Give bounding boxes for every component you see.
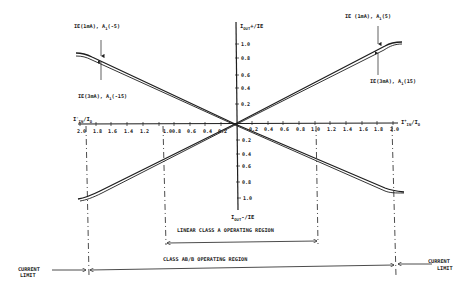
svg-text:LINEAR CLASS A OPERATING REGIO: LINEAR CLASS A OPERATING REGION: [177, 227, 274, 233]
svg-text:1.2: 1.2: [327, 126, 336, 132]
svg-text:1.0: 1.0: [243, 195, 252, 201]
svg-text:0.6: 0.6: [242, 163, 251, 169]
svg-text:IE(1mA), A1(-5): IE(1mA), A1(-5): [74, 23, 120, 31]
svg-text:0.6: 0.6: [280, 126, 289, 132]
svg-text:0.4: 0.4: [264, 126, 273, 132]
svg-text:1.6: 1.6: [108, 128, 117, 134]
x-axis-positive-label: I+IN/IO: [401, 118, 421, 127]
svg-text:LIMIT: LIMIT: [20, 272, 36, 278]
annotation-top-left: IE(1mA), A1(-5) IE(3mA), A1(-15): [74, 23, 127, 101]
x-ticks-right: 0.2 0.4 0.6 0.8 1.0 1.2 1.4 1.6 1.8 2.0: [249, 126, 399, 132]
y-axis-negative-label: IOUT-/IE: [231, 214, 254, 222]
svg-text:IE (1mA), A1(5): IE (1mA), A1(5): [345, 13, 391, 21]
y-ticks-up: 0.2 0.4 0.6 0.8 1.0: [241, 41, 250, 107]
svg-text:IE(3mA), A1(15): IE(3mA), A1(15): [370, 78, 416, 86]
svg-text:0.8: 0.8: [172, 128, 181, 134]
annotation-top-right: IE (1mA), A1(5) IE(3mA), A1(15): [345, 13, 416, 86]
x-ticks-left: 2.0 1.8 1.6 1.4 1.2 1.0 0.8 0.6 0.4 0.2: [77, 128, 227, 134]
class-ab-b-region: CLASS AB/B OPERATING REGION: [90, 256, 394, 270]
current-limit-left: CURRENT LIMIT: [18, 266, 86, 278]
svg-text:1.0: 1.0: [311, 126, 320, 132]
y-axis-positive-label: IOUT+/IE: [240, 23, 263, 31]
linear-class-a-region: LINEAR CLASS A OPERATING REGION: [167, 227, 317, 243]
svg-text:0.8: 0.8: [242, 179, 251, 185]
svg-text:CLASS AB/B OPERATING REGION: CLASS AB/B OPERATING REGION: [163, 256, 247, 262]
svg-text:IE(3mA), A1(-15): IE(3mA), A1(-15): [78, 93, 127, 101]
svg-text:1.4: 1.4: [343, 126, 352, 132]
svg-text:0.4: 0.4: [241, 85, 250, 91]
svg-text:0.6: 0.6: [241, 72, 250, 78]
svg-text:0.6: 0.6: [187, 128, 196, 134]
transfer-characteristic-diagram: 2.0 1.8 1.6 1.4 1.2 1.0 0.8 0.6 0.4 0.2 …: [0, 0, 470, 291]
svg-text:0.2: 0.2: [242, 137, 251, 143]
svg-text:1.8: 1.8: [93, 128, 102, 134]
svg-text:0.2: 0.2: [241, 101, 250, 107]
svg-text:1.2: 1.2: [140, 128, 149, 134]
svg-text:2.0: 2.0: [390, 126, 399, 132]
svg-text:CURRENT: CURRENT: [428, 258, 450, 264]
current-limit-right: CURRENT LIMIT: [398, 258, 453, 271]
y-axis: [235, 22, 241, 210]
svg-text:LIMIT: LIMIT: [437, 265, 453, 271]
svg-text:2.0: 2.0: [77, 128, 86, 134]
svg-text:0.8: 0.8: [296, 126, 305, 132]
svg-text:1.0: 1.0: [241, 41, 250, 47]
region-boundary-lines: [86, 126, 396, 276]
svg-text:0.4: 0.4: [203, 128, 212, 134]
svg-text:0.4: 0.4: [242, 151, 251, 157]
x-axis-negative-label: I-IN/IO: [73, 115, 93, 124]
svg-text:0.8: 0.8: [241, 55, 250, 61]
y-ticks-down: 0.2 0.4 0.6 0.8 1.0: [242, 137, 252, 201]
svg-text:1.4: 1.4: [124, 128, 133, 134]
svg-text:1.8: 1.8: [374, 126, 383, 132]
svg-text:1.6: 1.6: [359, 126, 368, 132]
svg-text:1.0: 1.0: [163, 128, 172, 134]
